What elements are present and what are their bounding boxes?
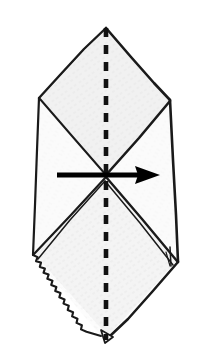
origami-diagram-svg [0,0,208,359]
right-flap-nick [170,247,171,266]
origami-figure-container [0,0,208,359]
